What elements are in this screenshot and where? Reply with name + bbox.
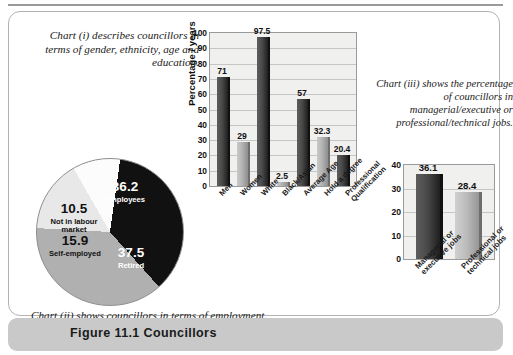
pie-label-self-employed: 15.9 Self-employed (42, 234, 108, 258)
pie-label-not-in-labour-market: 10.5 Not in labour market (40, 202, 108, 235)
pie-category-retired: Retired (100, 262, 162, 271)
pie-value-not-in-labour-market: 10.5 (40, 202, 108, 216)
chart-i-bar: 97.5 (257, 37, 270, 186)
chart-i-bar-group: 71 (217, 33, 229, 186)
chart-iii-x-axis-labels: Managerial orexecutive jobsProfessional … (403, 263, 503, 309)
chart-i-y-axis-ticks: 1009080706050403020100 (183, 32, 207, 187)
chart-i-bar-group: 2.5 (277, 33, 289, 186)
pie-category-self-employed: Self-employed (42, 250, 108, 259)
chart-iii-y-tick: 10 (391, 231, 401, 241)
chart-i-bar-group: 97.5 (257, 33, 269, 186)
chart-iii-y-tick: 20 (391, 207, 401, 217)
chart-iii-description: Chart (iii) shows the percentage of coun… (371, 78, 513, 130)
pie-category-not-in-labour-market: Not in labour market (40, 218, 108, 235)
pie-label-retired: 37.5 Retired (100, 246, 162, 270)
chart-i-bar-group: 32.3 (317, 33, 329, 186)
top-divider (8, 4, 503, 6)
chart-iii-y-axis-ticks: 403020100 (381, 164, 401, 260)
chart-i: Percentage / years 100908070605040302010… (169, 22, 365, 237)
chart-i-y-tick: 40 (198, 120, 207, 130)
chart-i-y-tick: 30 (198, 135, 207, 145)
chart-i-y-tick: 0 (202, 181, 207, 191)
chart-iii-y-tick: 40 (391, 160, 401, 170)
chart-ii: 36.2 Employees 37.5 Retired 15.9 Self-em… (36, 158, 184, 306)
chart-iii-bar-value: 36.1 (419, 162, 438, 173)
chart-i-y-tick: 70 (198, 74, 207, 84)
chart-i-y-tick: 90 (198, 43, 207, 53)
chart-i-y-tick: 20 (198, 150, 207, 160)
chart-i-y-tick: 10 (198, 166, 207, 176)
chart-i-bar-value: 29 (237, 131, 247, 141)
chart-i-bar-value: 57 (297, 88, 307, 98)
chart-i-y-tick: 100 (193, 28, 207, 38)
figure-panel: Chart (i) describes councillors in terms… (8, 11, 500, 316)
pie-value-employees: 36.2 (88, 180, 162, 194)
chart-iii: 403020100 36.128.4 Managerial orexecutiv… (381, 160, 507, 310)
chart-iii-bar-value: 28.4 (458, 180, 477, 191)
pie-value-retired: 37.5 (100, 246, 162, 260)
chart-i-bar: 29 (237, 142, 250, 186)
chart-iii-y-tick: 0 (396, 254, 401, 264)
chart-i-bar-value: 32.3 (314, 126, 331, 136)
chart-i-y-tick: 60 (198, 89, 207, 99)
chart-iii-y-tick: 30 (391, 184, 401, 194)
chart-i-bar-value: 71 (217, 66, 227, 76)
chart-i-y-tick: 80 (198, 59, 207, 69)
pie-label-employees: 36.2 Employees (88, 180, 162, 204)
chart-i-x-axis-labels: MenWomenWhiteBlack/AsianAverage AgeHold … (209, 190, 357, 236)
figure-caption: Figure 11.1 Councillors (70, 326, 217, 340)
chart-i-bar-value: 20.4 (334, 144, 351, 154)
chart-i-bar-group: 29 (237, 33, 249, 186)
chart-i-bar-value: 97.5 (254, 26, 271, 36)
chart-i-bar: 71 (217, 77, 230, 186)
chart-i-y-tick: 50 (198, 105, 207, 115)
pie-value-self-employed: 15.9 (42, 234, 108, 248)
